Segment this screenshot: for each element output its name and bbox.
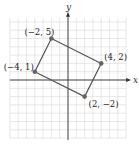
y-axis-arrow-icon (66, 12, 70, 17)
coordinate-plane-figure: x y (−2, 5)(4, 2)(2, −2)(−4, 1) (0, 0, 139, 145)
vertex-labels: (−2, 5)(4, 2)(2, −2)(−4, 1) (4, 27, 127, 109)
vertex-label: (−2, 5) (24, 27, 54, 37)
x-axis-arrow-icon (126, 78, 131, 82)
y-axis-label: y (65, 2, 72, 12)
vertex-point (49, 36, 54, 41)
vertex-label: (−4, 1) (4, 62, 34, 72)
vertex-label: (2, −2) (89, 99, 119, 109)
x-axis-label: x (133, 75, 138, 85)
vertex-label: (4, 2) (104, 52, 127, 62)
vertex-point (99, 61, 104, 66)
vertex-point (82, 94, 87, 99)
coordinate-plane: x y (−2, 5)(4, 2)(2, −2)(−4, 1) (0, 0, 139, 145)
